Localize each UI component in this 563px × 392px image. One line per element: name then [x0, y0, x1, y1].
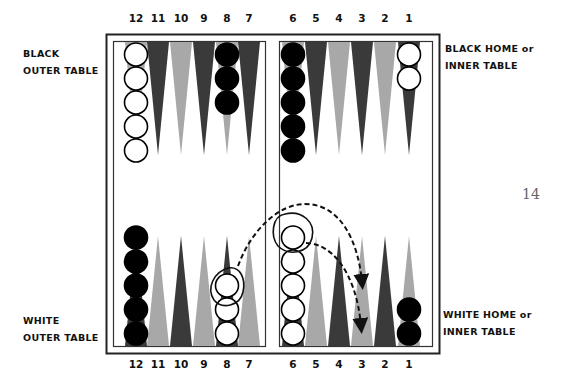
black-checker[interactable]	[282, 67, 305, 90]
black-checker[interactable]	[216, 67, 239, 90]
black-checker[interactable]	[398, 298, 421, 321]
point-number-10: 10	[171, 358, 191, 370]
white-checker[interactable]	[125, 67, 148, 90]
label-line: OUTER TABLE	[23, 62, 99, 79]
white-checker[interactable]	[216, 298, 239, 321]
point-number-2: 2	[375, 12, 395, 24]
point-number-4: 4	[329, 358, 349, 370]
black-checker[interactable]	[282, 43, 305, 66]
label-white-home-table: WHITE HOME or INNER TABLE	[443, 306, 532, 340]
label-line: OUTER TABLE	[23, 329, 99, 346]
point-number-3: 3	[352, 12, 372, 24]
white-checker[interactable]	[125, 43, 148, 66]
black-checker[interactable]	[398, 322, 421, 345]
label-line: INNER TABLE	[445, 57, 534, 74]
point-number-1: 1	[399, 358, 419, 370]
label-line: INNER TABLE	[443, 323, 532, 340]
point-number-8: 8	[217, 358, 237, 370]
black-checker[interactable]	[282, 139, 305, 162]
white-checker[interactable]	[125, 91, 148, 114]
black-checker[interactable]	[216, 91, 239, 114]
label-line: BLACK	[23, 45, 99, 62]
label-line: WHITE	[23, 312, 99, 329]
point-number-11: 11	[148, 12, 168, 24]
point-number-11: 11	[148, 358, 168, 370]
black-checker[interactable]	[125, 298, 148, 321]
black-checker[interactable]	[125, 274, 148, 297]
white-checker[interactable]	[282, 322, 305, 345]
black-checker[interactable]	[216, 43, 239, 66]
white-checker[interactable]	[125, 115, 148, 138]
label-black-home-table: BLACK HOME or INNER TABLE	[445, 40, 534, 74]
white-checker[interactable]	[216, 322, 239, 345]
point-number-10: 10	[171, 12, 191, 24]
point-number-1: 1	[399, 12, 419, 24]
white-checker[interactable]	[216, 274, 239, 297]
point-number-6: 6	[283, 358, 303, 370]
label-black-outer-table: BLACK OUTER TABLE	[23, 45, 99, 79]
point-number-4: 4	[329, 12, 349, 24]
point-number-12: 12	[126, 358, 146, 370]
black-checker[interactable]	[125, 226, 148, 249]
point-number-12: 12	[126, 12, 146, 24]
point-number-9: 9	[194, 12, 214, 24]
point-number-2: 2	[375, 358, 395, 370]
point-number-5: 5	[306, 358, 326, 370]
white-checker[interactable]	[398, 43, 421, 66]
black-checker[interactable]	[125, 250, 148, 273]
label-white-outer-table: WHITE OUTER TABLE	[23, 312, 99, 346]
white-checker[interactable]	[125, 139, 148, 162]
point-number-9: 9	[194, 358, 214, 370]
page-number: 14	[522, 186, 540, 202]
point-number-6: 6	[283, 12, 303, 24]
black-checker[interactable]	[125, 322, 148, 345]
white-checker[interactable]	[282, 298, 305, 321]
white-checker[interactable]	[282, 250, 305, 273]
point-number-7: 7	[239, 358, 259, 370]
white-checker[interactable]	[398, 67, 421, 90]
label-line: WHITE HOME or	[443, 306, 532, 323]
white-checker[interactable]	[282, 226, 305, 249]
black-checker[interactable]	[282, 91, 305, 114]
black-checker[interactable]	[282, 115, 305, 138]
point-number-7: 7	[239, 12, 259, 24]
label-line: BLACK HOME or	[445, 40, 534, 57]
point-number-3: 3	[352, 358, 372, 370]
white-checker[interactable]	[282, 274, 305, 297]
point-number-8: 8	[217, 12, 237, 24]
point-number-5: 5	[306, 12, 326, 24]
